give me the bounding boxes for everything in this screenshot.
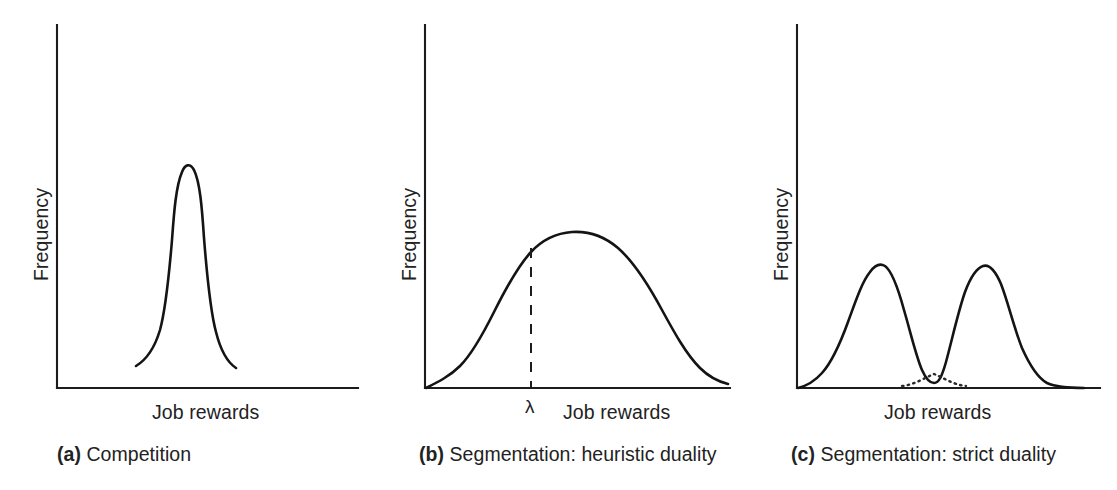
panel-c-distribution-curve — [798, 265, 1084, 388]
figure-container: Frequency Job rewards (a) Competition Fr… — [0, 0, 1117, 490]
panel-a: Frequency Job rewards (a) Competition — [0, 0, 372, 490]
panel-a-caption-text: Competition — [86, 443, 191, 465]
panel-b-caption: (b) Segmentation: heuristic duality — [419, 443, 717, 466]
panel-c-caption-text: Segmentation: strict duality — [820, 443, 1056, 465]
panel-a-y-axis-label: Frequency — [30, 188, 53, 281]
panel-b-x-axis-label: Job rewards — [563, 401, 670, 424]
panel-b-y-axis-label: Frequency — [398, 188, 421, 281]
panel-b-plot — [372, 0, 744, 490]
panel-c-x-axis-label: Job rewards — [884, 401, 991, 424]
panel-b-distribution-curve — [426, 232, 728, 388]
panel-a-x-axis-label: Job rewards — [152, 401, 259, 424]
panel-a-caption-tag: (a) — [57, 443, 81, 465]
panel-a-caption: (a) Competition — [57, 443, 191, 466]
panel-b-lambda-tick-label: λ — [525, 396, 535, 418]
panel-c-caption: (c) Segmentation: strict duality — [791, 443, 1056, 466]
panel-c: Frequency Job rewards (c) Segmentation: … — [744, 0, 1117, 490]
panel-c-y-axis-label: Frequency — [770, 188, 793, 281]
panel-c-caption-tag: (c) — [791, 443, 815, 465]
panel-a-distribution-curve — [136, 165, 236, 368]
panel-b: Frequency λ Job rewards (b) Segmentation… — [372, 0, 744, 490]
panel-b-caption-text: Segmentation: heuristic duality — [450, 443, 717, 465]
panel-b-caption-tag: (b) — [419, 443, 444, 465]
